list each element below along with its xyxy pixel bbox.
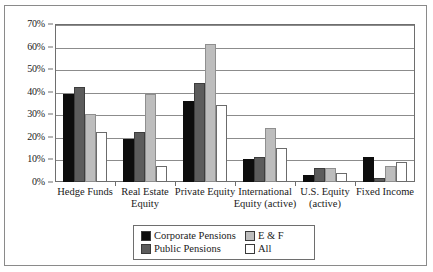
y-axis-tick-label: 60% [27, 42, 45, 52]
bar-group [295, 24, 355, 182]
bar [336, 173, 347, 182]
bar [123, 139, 134, 182]
bar [385, 166, 396, 182]
x-axis-tick-mark [355, 182, 356, 186]
y-axis-tick-mark [48, 182, 53, 183]
bar [265, 128, 276, 182]
y-axis-tick-mark [48, 24, 53, 25]
x-axis-tick-label: Fixed Income [347, 186, 423, 198]
y-axis-tick-label: 50% [27, 64, 45, 74]
y-axis-tick-mark [48, 114, 53, 115]
x-axis-tick-mark [115, 182, 116, 186]
bar [183, 101, 194, 182]
legend-item-corporate-pensions: Corporate Pensions [141, 229, 245, 242]
y-axis-tick-mark [48, 46, 53, 47]
bar [74, 87, 85, 182]
bar [194, 83, 205, 182]
bar [254, 157, 265, 182]
y-axis-tick-label: 70% [27, 19, 45, 29]
legend-swatch-icon [141, 244, 151, 254]
chart-frame: 0%10%20%30%40%50%60%70% Hedge FundsReal … [4, 5, 427, 266]
bar [276, 148, 287, 182]
legend-label: All [258, 242, 271, 255]
bar [363, 157, 374, 182]
y-axis: 0%10%20%30%40%50%60%70% [9, 24, 53, 182]
legend-swatch-icon [245, 231, 255, 241]
y-axis-tick-mark [48, 91, 53, 92]
bar-groups [55, 24, 415, 182]
x-axis: Hedge FundsReal EstateEquityPrivate Equi… [55, 186, 415, 220]
bar [216, 105, 227, 182]
bar [156, 166, 167, 182]
bar [243, 159, 254, 182]
legend-item-all: All [245, 242, 271, 255]
bar [63, 94, 74, 182]
legend-swatch-icon [141, 231, 151, 241]
legend-item-e-and-f: E & F [245, 229, 284, 242]
y-axis-tick-label: 10% [27, 154, 45, 164]
y-axis-tick-mark [48, 136, 53, 137]
legend-row: Public Pensions All [141, 242, 307, 255]
x-axis-tick-mark [235, 182, 236, 186]
legend-label: E & F [258, 229, 284, 242]
bar-group [175, 24, 235, 182]
y-axis-tick-label: 20% [27, 132, 45, 142]
y-axis-tick-mark [48, 159, 53, 160]
legend-item-public-pensions: Public Pensions [141, 242, 245, 255]
y-axis-tick-label: 0% [32, 177, 45, 187]
bar-group [115, 24, 175, 182]
bar [314, 168, 325, 182]
bar [303, 175, 314, 182]
bar-group [55, 24, 115, 182]
x-axis-tick-mark [295, 182, 296, 186]
bar [205, 44, 216, 182]
chart-legend: Corporate Pensions E & F Public Pensions… [133, 225, 315, 260]
legend-swatch-icon [245, 244, 255, 254]
bar [396, 162, 407, 182]
legend-label: Public Pensions [154, 242, 221, 255]
bar [145, 94, 156, 182]
y-axis-tick-label: 40% [27, 87, 45, 97]
bar-group [355, 24, 415, 182]
y-axis-tick-mark [48, 69, 53, 70]
bar [85, 114, 96, 182]
x-axis-tick-mark [175, 182, 176, 186]
legend-label: Corporate Pensions [154, 229, 236, 242]
bar [96, 132, 107, 182]
legend-row: Corporate Pensions E & F [141, 229, 307, 242]
y-axis-tick-label: 30% [27, 109, 45, 119]
bar [374, 178, 385, 183]
bar [134, 132, 145, 182]
bar [325, 168, 336, 182]
bar-group [235, 24, 295, 182]
